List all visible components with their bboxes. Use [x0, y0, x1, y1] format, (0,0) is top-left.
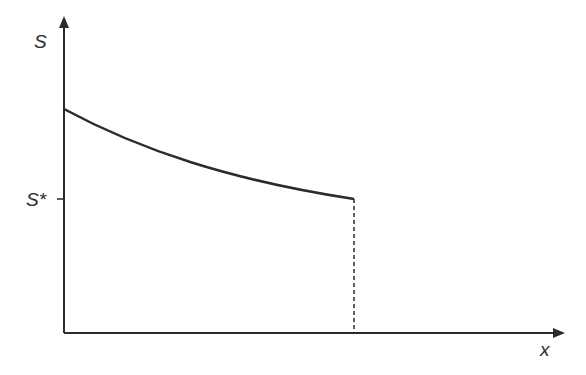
y-axis-label: S [34, 31, 47, 52]
x-axis [64, 328, 565, 338]
decay-curve [64, 109, 354, 199]
x-axis-arrow-icon [553, 328, 565, 338]
diagram-canvas: S S* x [0, 0, 586, 375]
y-axis-arrow-icon [59, 16, 69, 28]
y-axis [59, 16, 69, 333]
s-star-label: S* [26, 189, 47, 210]
x-axis-label: x [539, 339, 551, 360]
